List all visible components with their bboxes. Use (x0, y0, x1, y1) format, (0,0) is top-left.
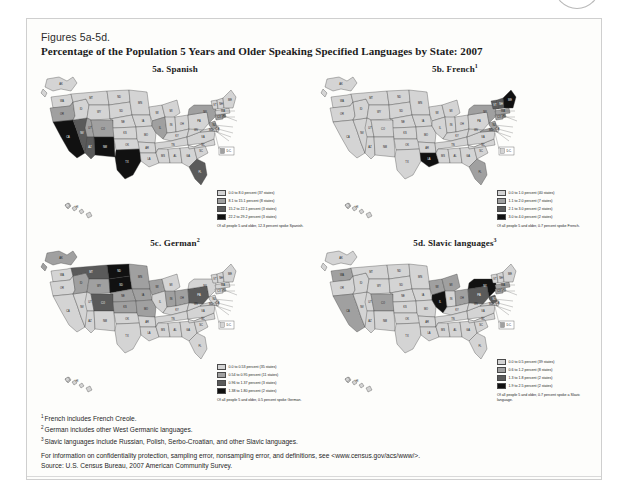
state-hi-island-2 (79, 383, 84, 388)
choropleth-slavic: WAORCANVIDMTWYUTCOAZNMNDSDNEKSOKTXMNIAMO… (317, 249, 527, 407)
state-hi-island-3 (86, 212, 92, 218)
legend-french: 0.0 to 1.0 percent (40 states) 1.1 to 2.… (497, 189, 593, 229)
legend-swatch-4 (217, 214, 226, 220)
legend-label-2: 8.1 to 15.1 percent (8 states) (229, 198, 275, 204)
state-ks (113, 301, 137, 313)
state-la (140, 327, 159, 341)
footnote-2: 2German includes other West Germanic lan… (41, 423, 581, 435)
legend-label-1: 0.0 to 0.5 percent (39 states) (509, 359, 555, 365)
leader-line-4 (218, 129, 233, 133)
dc-leader-line (495, 133, 499, 149)
legend-swatch-4 (497, 383, 506, 389)
figure-title: Percentage of the Population 5 Years and… (41, 44, 589, 58)
state-ks (393, 301, 417, 313)
state-mi (162, 274, 180, 293)
footnote-text: German includes other West Germanic lang… (45, 427, 193, 434)
map-title-text: 5c. German (150, 238, 197, 248)
map-title-slavic: 5d. Slavic languages3 (315, 237, 595, 248)
state-mi (162, 100, 180, 119)
source-line: Source: U.S. Census Bureau, 2007 America… (41, 461, 589, 471)
legend-row: 1.9 to 2.5 percent (2 states) (497, 382, 593, 389)
state-nm (94, 311, 115, 331)
state-ar (418, 142, 436, 153)
state-ak-panhandle-0 (321, 89, 327, 97)
state-tx (115, 149, 141, 179)
map-title-spanish: 5a. Spanish (35, 63, 315, 74)
legend-label-4: 22.2 to 29.2 percent (3 states) (229, 214, 277, 220)
state-mo (416, 300, 436, 317)
dc-swatch (501, 149, 505, 154)
legend-note: Of all people 5 and older, 0.5 percent s… (217, 398, 311, 403)
state-pa (468, 112, 489, 130)
us-map-svg-spanish: WAORCANVIDMTWYUTCOAZNMNDSDNEKSOKTXMNIAMO… (37, 75, 247, 233)
state-al (168, 148, 182, 163)
state-nm (374, 311, 395, 331)
legend-row: 0.0 to 1.0 percent (40 states) (497, 189, 593, 196)
dc-leader-line (215, 307, 219, 323)
us-map-svg-slavic: WAORCANVIDMTWYUTCOAZNMNDSDNEKSOKTXMNIAMO… (317, 249, 527, 407)
state-al (168, 322, 182, 337)
state-mo (136, 126, 156, 143)
state-al (448, 148, 462, 163)
state-la (420, 327, 439, 341)
figure-number: Figures 5a-5d. (41, 31, 589, 44)
map-title-text: 5a. Spanish (152, 64, 198, 74)
legend-row: 3.0 to 4.0 percent (2 states) (497, 213, 593, 220)
legend-label-4: 3.0 to 4.0 percent (2 states) (509, 214, 553, 220)
state-ar (418, 316, 436, 327)
legend-swatch-2 (217, 198, 226, 204)
bottom-rule (27, 476, 601, 477)
state-tx (115, 323, 141, 353)
legend-slavic: 0.0 to 0.5 percent (39 states) 0.6 to 1.… (497, 358, 593, 403)
state-ak (325, 77, 357, 91)
state-ar (138, 142, 156, 153)
state-co (91, 294, 114, 311)
figure-sheet: Figures 5a-5d. Percentage of the Populat… (26, 18, 602, 480)
state-ok (394, 313, 420, 324)
legend-note: Of all people 5 and older, 12.3 percent … (217, 224, 311, 229)
map-panel-spanish: 5a. Spanish WAORCANVIDMTWYUTCOAZNMNDSDNE… (35, 61, 315, 235)
state-ks (393, 127, 417, 139)
state-hi-island-1 (72, 206, 77, 211)
legend-swatch-1 (497, 190, 506, 196)
map-panel-french: 5b. French1 WAORCANVIDMTWYUTCOAZNMNDSDNE… (315, 61, 595, 235)
map-panel-german: 5c. German2 WAORCANVIDMTWYUTCOAZNMNDSDNE… (35, 235, 315, 409)
leader-line-4 (498, 129, 513, 133)
page-corner-arc (554, 0, 600, 9)
legend-swatch-2 (217, 372, 226, 378)
state-id (73, 99, 89, 120)
footnote-text: Slavic languages include Russian, Polish… (45, 438, 298, 445)
footnotes: 1French includes French Creole. 2German … (41, 412, 581, 447)
legend-label-3: 1.3 to 1.8 percent (2 states) (509, 375, 553, 381)
state-nm (374, 137, 395, 157)
legend-label-3: 2.1 to 3.0 percent (2 states) (509, 206, 553, 212)
us-map-svg-french: WAORCANVIDMTWYUTCOAZNMNDSDNEKSOKTXMNIAMO… (317, 75, 527, 233)
state-mn (409, 90, 430, 115)
legend-label-2: 0.54 to 0.95 percent (11 states) (229, 372, 279, 378)
legend-swatch-3 (217, 206, 226, 212)
legend-swatch-3 (497, 206, 506, 212)
legend-row: 0.0 to 8.0 percent (37 states) (217, 189, 313, 196)
legend-note: Of all people 5 and older, 0.7 percent s… (497, 224, 591, 229)
state-hi-island-1 (352, 380, 357, 385)
legend-row: 1.3 to 1.8 percent (2 states) (497, 374, 593, 381)
choropleth-german: WAORCANVIDMTWYUTCOAZNMNDSDNEKSOKTXMNIAMO… (37, 249, 247, 407)
dc-leader-line (495, 307, 499, 323)
map-title-text: 5d. Slavic languages (413, 238, 493, 248)
state-nh (217, 98, 224, 109)
map-title-german: 5c. German2 (35, 237, 315, 248)
state-la (420, 153, 439, 167)
dc-swatch (221, 149, 225, 154)
state-me (503, 90, 516, 108)
state-az (365, 311, 375, 333)
map-panel-slavic: 5d. Slavic languages3 WAORCANVIDMTWYUTCO… (315, 235, 595, 409)
state-wy (87, 279, 110, 294)
leader-line-6 (217, 306, 229, 315)
legend-row: 0.96 to 1.37 percent (3 states) (217, 379, 313, 386)
state-ok (394, 139, 420, 150)
leader-line-2 (224, 290, 237, 295)
state-ak-panhandle-0 (321, 263, 327, 271)
state-ks (113, 127, 137, 139)
state-ak (325, 251, 357, 265)
state-ak (45, 77, 77, 91)
